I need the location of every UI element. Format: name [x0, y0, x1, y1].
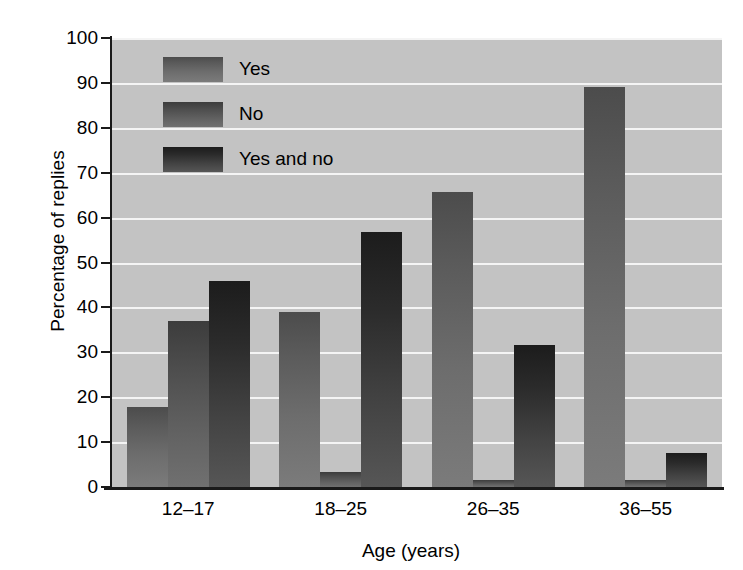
- bar-no-18–25: [320, 472, 361, 487]
- legend-swatch-icon: [163, 102, 223, 127]
- legend-item-yes-and-no: Yes and no: [163, 140, 423, 178]
- bar-yes-and-no-26–35: [514, 345, 555, 487]
- gridline: [112, 218, 722, 220]
- y-axis-tick-label: 0: [36, 476, 98, 498]
- legend-label: No: [239, 103, 263, 125]
- bar-yes-26–35: [432, 192, 473, 487]
- y-axis-tick-mark: [101, 396, 111, 398]
- y-axis-tick-label: 100: [36, 27, 98, 49]
- bar-yes-12–17: [127, 407, 168, 487]
- y-axis-tick-mark: [101, 441, 111, 443]
- y-axis-tick-label: 30: [36, 341, 98, 363]
- bar-yes-and-no-36–55: [666, 453, 707, 487]
- legend-item-no: No: [163, 95, 423, 133]
- legend-label: Yes: [239, 58, 270, 80]
- y-axis-tick-mark: [101, 82, 111, 84]
- y-axis-tick-mark: [101, 351, 111, 353]
- x-axis-title: Age (years): [100, 540, 722, 562]
- y-axis-tick-mark: [101, 172, 111, 174]
- x-axis-line: [104, 487, 724, 490]
- gridline: [112, 38, 722, 40]
- gridline: [112, 263, 722, 265]
- bar-yes-18–25: [279, 312, 320, 487]
- y-axis-tick-mark: [101, 217, 111, 219]
- legend-item-yes: Yes: [163, 50, 423, 88]
- bar-no-26–35: [473, 480, 514, 487]
- legend-swatch-icon: [163, 57, 223, 82]
- y-axis-tick-label: 50: [36, 252, 98, 274]
- bar-chart: Percentage of replies 010203040506070809…: [0, 0, 743, 570]
- y-axis-tick-label: 10: [36, 431, 98, 453]
- y-axis-tick-mark: [101, 262, 111, 264]
- bar-yes-and-no-18–25: [361, 232, 402, 487]
- y-axis-tick-mark: [101, 37, 111, 39]
- y-axis-tick-label: 60: [36, 207, 98, 229]
- x-axis-tick-label: 26–35: [467, 498, 520, 520]
- y-axis-tick-labels: 0102030405060708090100: [30, 0, 98, 570]
- legend-swatch-icon: [163, 147, 223, 172]
- bar-yes-36–55: [584, 87, 625, 487]
- y-axis-tick-label: 80: [36, 117, 98, 139]
- bar-no-12–17: [168, 321, 209, 487]
- y-axis-tick-mark: [101, 127, 111, 129]
- bar-yes-and-no-12–17: [209, 281, 250, 487]
- x-axis-tick-label: 12–17: [162, 498, 215, 520]
- legend-label: Yes and no: [239, 148, 333, 170]
- x-axis-tick-label: 36–55: [619, 498, 672, 520]
- bar-no-36–55: [625, 480, 666, 487]
- gridline: [112, 307, 722, 309]
- y-axis-tick-mark: [101, 306, 111, 308]
- y-axis-tick-mark: [101, 486, 111, 488]
- y-axis-tick-label: 90: [36, 72, 98, 94]
- y-axis-tick-label: 40: [36, 296, 98, 318]
- legend: YesNoYes and no: [163, 50, 423, 185]
- y-axis-tick-label: 20: [36, 386, 98, 408]
- x-axis-tick-label: 18–25: [314, 498, 367, 520]
- y-axis-tick-label: 70: [36, 162, 98, 184]
